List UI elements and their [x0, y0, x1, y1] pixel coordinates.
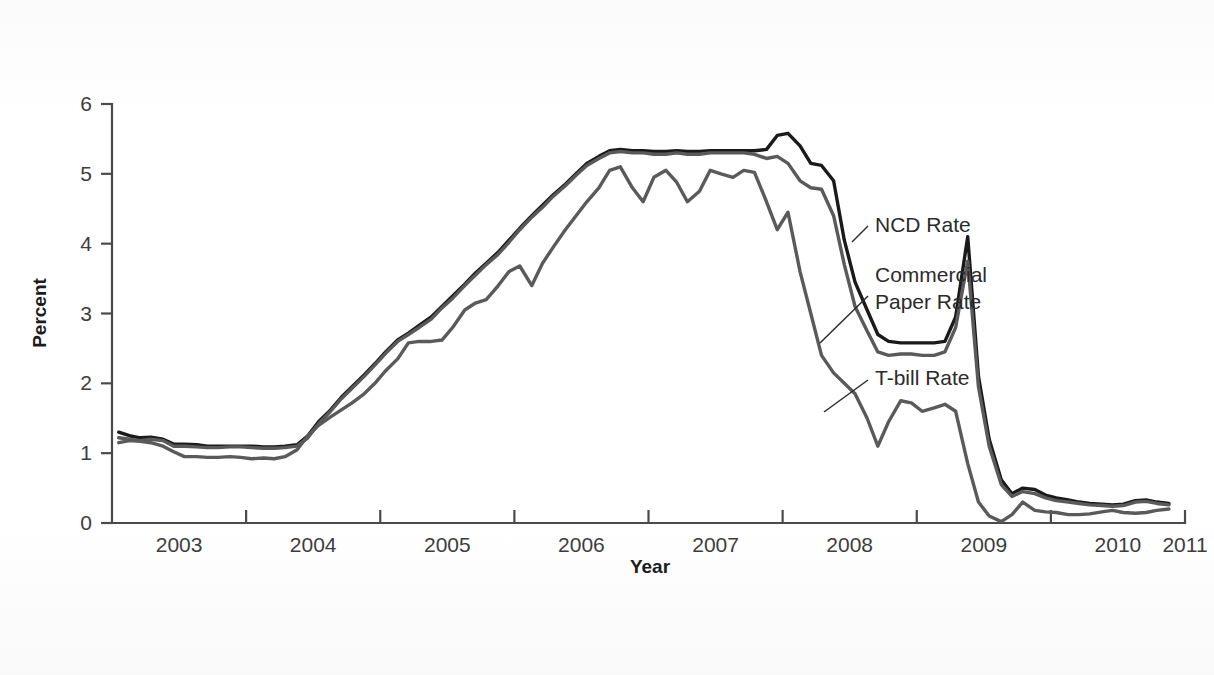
y-tick-label-5: 5 [80, 162, 92, 185]
figure-canvas: 0123456 20032004200520062007200820092010… [0, 0, 1214, 675]
x-tick-label-2008: 2008 [826, 533, 873, 556]
y-tick-label-2: 2 [80, 371, 92, 394]
annotation-label-ncd: NCD Rate [875, 213, 971, 236]
y-axis-tick-labels: 0123456 [80, 92, 92, 534]
y-tick-label-3: 3 [80, 302, 92, 325]
x-tick-label-2004: 2004 [290, 533, 337, 556]
y-axis-ticks [101, 104, 112, 523]
annotation-ncd: NCD Rate [852, 213, 971, 242]
y-axis-title: Percent [29, 277, 50, 347]
annotation-leader-ncd [852, 226, 868, 242]
y-tick-label-6: 6 [80, 92, 92, 115]
annotation-commercial-paper: CommercialPaper Rate [820, 263, 987, 343]
line-chart: 0123456 20032004200520062007200820092010… [0, 0, 1214, 675]
series-line-commercial-paper-rate [119, 151, 1169, 506]
x-tick-label-2005: 2005 [424, 533, 471, 556]
series-lines-group [119, 133, 1169, 521]
annotation-label-commercial-paper: Paper Rate [875, 290, 981, 313]
annotation-label-commercial-paper: Commercial [875, 263, 987, 286]
x-tick-label-2006: 2006 [558, 533, 605, 556]
axes-group: 0123456 20032004200520062007200820092010… [80, 92, 1207, 556]
y-tick-label-4: 4 [80, 232, 92, 255]
x-tick-label-2011: 2011 [1162, 533, 1207, 556]
x-tick-label-2009: 2009 [960, 533, 1007, 556]
annotation-label-tbill: T-bill Rate [875, 366, 970, 389]
x-tick-label-2007: 2007 [692, 533, 739, 556]
y-tick-label-0: 0 [80, 511, 92, 534]
x-tick-label-2003: 2003 [156, 533, 203, 556]
y-tick-label-1: 1 [80, 441, 92, 464]
x-axis-tick-labels: 200320042005200620072008200920102011 [156, 533, 1208, 556]
series-line-t-bill-rate [119, 167, 1169, 522]
x-tick-label-2010: 2010 [1095, 533, 1142, 556]
x-axis-title: Year [630, 556, 671, 577]
